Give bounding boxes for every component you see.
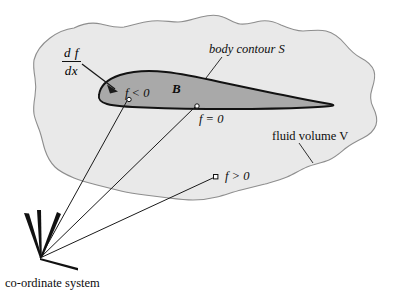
derivative-numerator: d f [62,46,81,61]
body-region-label: B [172,82,181,95]
axis-arrow-horizontal-right [40,258,78,271]
figure-container: d f dx body contour S B f < 0 f = 0 f > … [0,0,398,301]
f-negative-label: f < 0 [125,87,149,100]
derivative-label: d f dx [62,46,81,77]
body-contour-label: body contour S [209,43,285,56]
fluid-volume-label: fluid volume V [272,130,348,143]
derivative-denominator: dx [62,63,81,78]
axis-arrow-upper-right [40,212,61,258]
coordinate-system-label: co-ordinate system [5,277,100,290]
marker-f-zero-point [195,104,199,108]
marker-f-positive-point [214,175,218,179]
diagram-canvas [0,0,398,301]
fraction-bar [62,61,81,62]
f-zero-label: f = 0 [199,113,223,126]
f-positive-label: f > 0 [225,170,249,183]
